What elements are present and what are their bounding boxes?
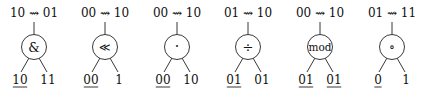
left-operand: 00: [155, 73, 170, 87]
left-edge: [21, 58, 29, 72]
transition-label: 00 ⇝ 10: [153, 6, 201, 20]
right-edge: [110, 58, 118, 72]
compose-operator-icon: ∘: [389, 40, 395, 54]
right-edge: [39, 58, 47, 72]
operator-tree: 10 ⇝ 01&1011: [10, 6, 58, 87]
left-operand: 00: [83, 73, 98, 87]
operator-tree: 01 ⇝ 11∘01: [368, 6, 416, 87]
left-edge: [235, 58, 243, 72]
right-edge: [253, 58, 261, 72]
right-operand: 1: [115, 73, 123, 87]
operator-tree: 00 ⇝ 10·0010: [153, 6, 201, 87]
left-operand: 01: [298, 73, 313, 87]
operator-tree: 00 ⇝ 10≪001: [81, 6, 129, 87]
operator-trees-diagram: 10 ⇝ 01&101100 ⇝ 10≪00100 ⇝ 10·001001 ⇝ …: [0, 0, 430, 93]
right-edge: [325, 58, 333, 72]
shift-left-operator-icon: ≪: [99, 41, 111, 54]
transition-label: 00 ⇝ 10: [81, 6, 129, 20]
transition-label: 10 ⇝ 01: [10, 6, 58, 20]
left-operand: 0: [374, 73, 382, 87]
transition-label: 01 ⇝ 11: [368, 6, 416, 20]
bitwise-and-operator-icon: &: [28, 40, 40, 55]
right-operand: 01: [326, 73, 341, 87]
right-edge: [182, 58, 190, 72]
multiply-operator-icon: ·: [175, 38, 179, 54]
right-operand: 01: [254, 73, 269, 87]
left-edge: [307, 58, 315, 72]
left-edge: [92, 58, 100, 72]
left-operand: 10: [12, 73, 27, 87]
operator-tree: 01 ⇝ 10÷0101: [224, 6, 272, 87]
divide-operator-icon: ÷: [243, 40, 254, 55]
modulo-operator-icon: mod: [309, 41, 332, 53]
right-operand: 1: [402, 73, 410, 87]
right-operand: 11: [40, 73, 55, 87]
operator-tree: 00 ⇝ 10mod0101: [296, 6, 344, 87]
transition-label: 00 ⇝ 10: [296, 6, 344, 20]
left-operand: 01: [226, 73, 241, 87]
transition-label: 01 ⇝ 10: [224, 6, 272, 20]
left-edge: [164, 58, 172, 72]
right-operand: 10: [183, 73, 198, 87]
left-edge: [379, 58, 387, 72]
right-edge: [397, 58, 405, 72]
